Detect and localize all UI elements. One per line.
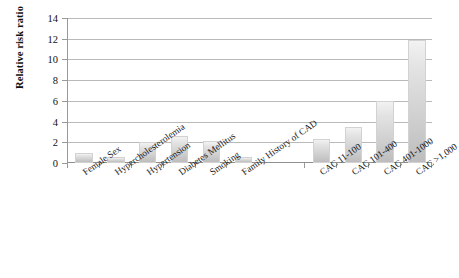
y-axis-tick-label: 14 [48,13,59,24]
plot-area [67,18,432,163]
bar [313,139,331,163]
y-axis-tick-label: 4 [53,116,58,127]
y-axis-tick-label: 10 [48,54,59,65]
y-axis-tick-label: 8 [53,75,58,86]
gridline [68,39,432,40]
y-axis-tick-label: 12 [48,33,59,44]
gridline [68,18,432,19]
y-axis-tick-labels: 02468101214 [0,0,67,181]
gridline [68,80,432,81]
x-axis-category-labels: Female SexHypercholesterolemiaHypertensi… [0,163,438,278]
y-axis-tick-label: 2 [53,137,58,148]
gridline [68,59,432,60]
y-axis-tick-label: 6 [53,95,58,106]
